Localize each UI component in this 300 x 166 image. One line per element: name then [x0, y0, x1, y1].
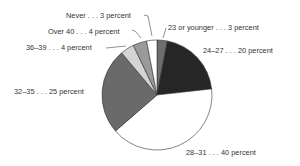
label-24-27: 24–27 . . . 20 percent: [203, 47, 273, 54]
label-over-40: Over 40 . . . 4 percent: [48, 28, 119, 35]
leader-never: [144, 15, 152, 36]
label-never: Never . . . 3 percent: [66, 12, 131, 19]
leader-over40: [132, 30, 141, 38]
leader-young: [163, 28, 166, 38]
pie-slices: [102, 40, 212, 150]
label-36-39: 36–39 . . . 4 percent: [26, 44, 92, 51]
label-32-35: 32–35 . . . 25 percent: [14, 88, 84, 95]
label-28-31: 28–31 . . . 40 percent: [186, 149, 256, 156]
leader-3639: [106, 46, 126, 48]
label-23-or-younger: 23 or younger . . . 3 percent: [168, 24, 259, 31]
